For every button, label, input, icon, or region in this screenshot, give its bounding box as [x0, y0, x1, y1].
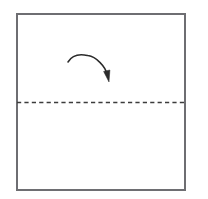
fold-diagram-canvas [0, 0, 208, 199]
fold-diagram: Valley fold in half [0, 0, 208, 199]
